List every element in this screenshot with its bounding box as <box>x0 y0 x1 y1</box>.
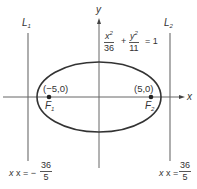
x-axis-arrow-icon <box>179 95 185 99</box>
equation-equals: = 1 <box>145 37 158 46</box>
focus-f2-label: F2 <box>145 101 154 112</box>
focus-f1-label: F1 <box>45 101 54 112</box>
directrix-l2-label: L2 <box>164 18 173 29</box>
y-axis-label: y <box>96 5 101 15</box>
y-axis-arrow-icon <box>97 18 101 24</box>
focus-f2-coords: (5,0) <box>134 84 154 94</box>
equation-x-term: x2 36 <box>104 30 114 53</box>
focus-f1-coords: (−5,0) <box>43 84 68 94</box>
equation-plus: + <box>121 37 126 46</box>
focus-f2-dot <box>149 95 154 100</box>
focus-f1-dot <box>47 95 52 100</box>
equation-y-term: y2 11 <box>129 30 139 53</box>
directrix-l2-equation: x x = 36 5 <box>159 161 197 189</box>
directrix-l1-label: L1 <box>22 18 31 29</box>
ellipse-diagram: y x L1 L2 x2 36 + y2 11 = 1 (−5,0) (5,0)… <box>0 0 197 189</box>
directrix-l1-equation: x x = − 36 5 <box>9 161 59 189</box>
x-axis-label: x <box>187 92 192 102</box>
